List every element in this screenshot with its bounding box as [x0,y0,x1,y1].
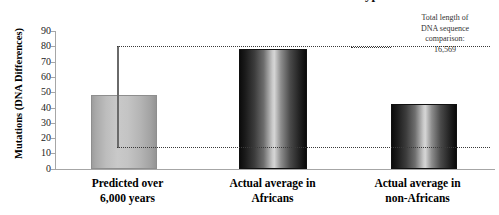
y-tick-mark [51,62,55,63]
y-tick-label: 40 [41,103,51,113]
y-tick-mark [51,153,55,154]
chart-title: Mutations in the mitochondrial DNA hyper… [150,0,390,3]
y-tick-label: 50 [41,87,51,97]
x-label-line-1: Actual average in [200,176,345,191]
y-axis-title: Mutations (DNA Differences) [13,14,24,174]
annotation-line-2: DNA sequence [395,24,495,35]
x-label-line-2: 6,000 years [55,191,200,206]
x-axis-line [55,169,495,170]
annotation-connector-line [351,47,391,48]
y-tick-label: 70 [41,57,51,67]
y-tick-mark [51,92,55,93]
y-tick-mark [51,108,55,109]
x-label-line-2: non-Africans [345,191,490,206]
y-tick-label: 10 [41,148,51,158]
bar-predicted-over-6000-years [91,95,157,169]
y-tick-mark [51,77,55,78]
annotation-line-3: comparison: [395,34,495,45]
x-label-line-2: Africans [200,191,345,206]
y-tick-label: 80 [41,41,51,51]
y-tick-mark [51,169,55,170]
y-tick-mark [51,31,55,32]
y-tick-label: 90 [41,26,51,36]
bar-actual-average-in-non-africans [391,104,457,169]
annotation-total-length: Total length of DNA sequence comparison:… [395,13,495,55]
x-label-line-1: Predicted over [55,176,200,191]
annotation-line-4: 16,569 [395,45,495,56]
y-tick-mark [51,138,55,139]
y-tick-mark [51,46,55,47]
x-label-africans: Actual average in Africans [200,176,345,215]
x-label-non-africans: Actual average in non-Africans [345,176,490,215]
x-axis-labels: Predicted over 6,000 years Actual averag… [55,176,490,215]
y-tick-label: 60 [41,72,51,82]
x-label-predicted: Predicted over 6,000 years [55,176,200,215]
y-tick-mark [51,123,55,124]
chart-container: Mutations in the mitochondrial DNA hyper… [0,0,499,215]
annotation-line-1: Total length of [395,13,495,24]
y-tick-label: 30 [41,118,51,128]
y-tick-label: 20 [41,133,51,143]
error-bar-predicted [117,46,119,148]
bar-actual-average-in-africans [239,49,307,169]
reference-line-lower [117,147,490,148]
y-axis-line [55,31,56,170]
x-label-line-1: Actual average in [345,176,490,191]
